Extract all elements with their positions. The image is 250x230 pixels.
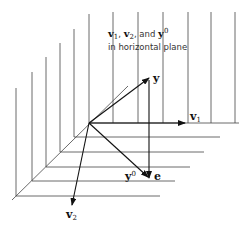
caption-line2: in horizontal plane [108, 42, 187, 52]
v2-label: v2 [65, 208, 77, 222]
y-label: y [152, 72, 160, 85]
y0-vector [89, 123, 148, 177]
vertical-plane-grid [16, 12, 235, 196]
v2-vector [72, 123, 89, 205]
e-label: e [154, 170, 161, 183]
y-vector [89, 78, 149, 123]
vector-projection-diagram: v1, v2, and y0 in horizontal plane y v1 … [0, 0, 250, 230]
v1-label: v1 [189, 110, 201, 124]
caption-line1: v1, v2, and y0 [107, 27, 168, 41]
